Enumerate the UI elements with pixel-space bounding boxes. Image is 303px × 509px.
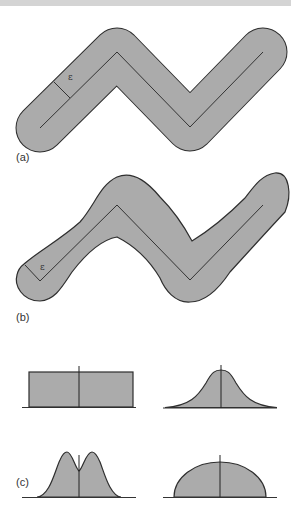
profile-rectangular bbox=[22, 366, 136, 408]
panel-a-epsilon-label: ε bbox=[68, 72, 73, 82]
panel-b-label: (b) bbox=[16, 311, 29, 323]
figure-canvas bbox=[0, 0, 303, 509]
profile-bimodal bbox=[22, 452, 136, 498]
panel-a-tube bbox=[40, 52, 263, 128]
panel-c-label: (c) bbox=[16, 476, 29, 488]
panel-b-tube bbox=[16, 173, 288, 302]
profile-semi-elliptic bbox=[163, 455, 277, 498]
panel-a-label: (a) bbox=[16, 151, 29, 163]
profile-gaussian bbox=[163, 365, 277, 408]
panel-b-epsilon-label: ε bbox=[40, 262, 45, 272]
